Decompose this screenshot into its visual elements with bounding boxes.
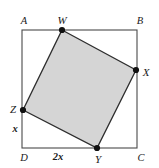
vertex-marker-x bbox=[133, 67, 139, 73]
vertex-label-w: W bbox=[57, 15, 66, 26]
corner-label-d: D bbox=[20, 153, 28, 164]
corner-label-a: A bbox=[21, 16, 27, 27]
corner-label-c: C bbox=[137, 153, 144, 164]
measurement-label-2x: 2x bbox=[53, 152, 64, 163]
vertex-marker-z bbox=[20, 107, 26, 113]
vertex-label-x: X bbox=[143, 67, 150, 78]
vertex-marker-w bbox=[59, 27, 65, 33]
vertex-label-y: Y bbox=[95, 154, 101, 165]
corner-label-b: B bbox=[137, 16, 143, 27]
vertex-marker-y bbox=[94, 145, 100, 151]
vertex-label-z: Z bbox=[10, 104, 16, 115]
geometry-figure: A B C D W X Y Z x 2x bbox=[0, 0, 159, 168]
inner-square-shaded-region bbox=[23, 30, 136, 148]
measurement-label-x: x bbox=[12, 124, 17, 135]
